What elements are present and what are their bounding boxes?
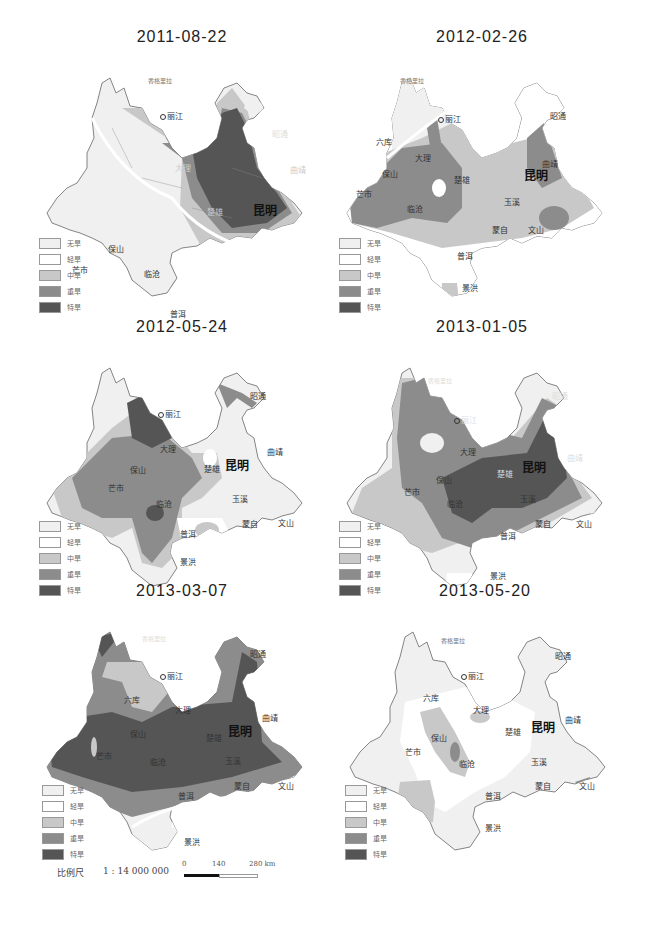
- legend-swatch: [339, 254, 361, 265]
- city-marker-icon: [438, 117, 444, 123]
- legend-item-none: 无旱: [339, 518, 409, 534]
- legend-swatch: [345, 785, 367, 796]
- city-label-dali: 大理: [415, 152, 431, 163]
- legend-item-light: 轻旱: [42, 798, 112, 814]
- map-panel-2013-03-07: 2013-03-07 香格里拉 昭通 丽江 六库 大理 曲靖 昆明 保山 楚雄 …: [32, 582, 332, 867]
- city-label-zhaotong: 昭通: [250, 390, 266, 401]
- city-label-qujing: 曲靖: [565, 714, 581, 725]
- legend-swatch: [345, 849, 367, 860]
- city-label-lincang: 临沧: [459, 758, 475, 769]
- city-marker-icon: [160, 674, 166, 680]
- city-label-chuxiong: 楚雄: [497, 468, 513, 479]
- city-label-mangshi: 芒市: [108, 482, 124, 493]
- city-label-wenshan: 文山: [278, 517, 294, 528]
- city-label-liuku: 六库: [124, 694, 140, 705]
- city-label-jinghong: 景洪: [462, 282, 478, 293]
- city-label-dali: 大理: [473, 704, 489, 715]
- city-marker-icon: [454, 418, 460, 424]
- city-label-jinghong: 景洪: [184, 836, 200, 847]
- city-label-zhaotong: 昭通: [552, 390, 568, 401]
- map-panel-2011-08-22: 2011-08-22 香格里拉 丽江 昭通 大理 曲靖 昆明 楚雄 保山 芒市 …: [32, 28, 332, 313]
- scale-bar-segment-light: [219, 874, 258, 878]
- city-label-zhaotong: 昭通: [272, 128, 288, 139]
- legend-swatch: [39, 302, 61, 313]
- legend-swatch: [345, 833, 367, 844]
- city-label-zhaotong: 昭通: [250, 648, 266, 659]
- city-label-lijiang: 丽江: [160, 110, 183, 121]
- legend: 无旱 轻旱 中旱 重旱 特旱: [339, 235, 409, 315]
- legend-item-severe: 重旱: [345, 830, 415, 846]
- city-label-lijiang: 丽江: [158, 408, 181, 419]
- legend-item-none: 无旱: [39, 518, 109, 534]
- city-label-lincang: 临沧: [150, 756, 166, 767]
- city-label-kunming: 昆明: [522, 458, 546, 475]
- legend-swatch: [339, 553, 361, 564]
- city-label-lincang: 临沧: [407, 203, 423, 214]
- city-label-yuxi: 玉溪: [504, 196, 520, 207]
- legend-swatch: [39, 254, 61, 265]
- legend-item-moderate: 中旱: [42, 814, 112, 830]
- city-label-dali: 大理: [460, 446, 476, 457]
- map-panel-2012-02-26: 2012-02-26 香格里拉 昭通 丽江 六库 大理 曲靖 保山 昆明 楚雄 …: [332, 28, 632, 313]
- city-label-lijiang: 丽江: [438, 113, 461, 124]
- city-label-chuxiong: 楚雄: [206, 732, 222, 743]
- city-label-jinghong: 景洪: [485, 822, 501, 833]
- legend-item-severe: 重旱: [39, 283, 109, 299]
- legend-item-none: 无旱: [39, 235, 109, 251]
- city-label-shangri-la: 香格里拉: [428, 376, 452, 385]
- legend: 无旱 轻旱 中旱 重旱 特旱: [42, 782, 112, 862]
- city-label-qujing: 曲靖: [267, 446, 283, 457]
- legend-item-light: 轻旱: [39, 534, 109, 550]
- legend-item-severe: 重旱: [339, 566, 409, 582]
- city-label-chuxiong: 楚雄: [505, 726, 521, 737]
- city-label-shangri-la: 香格里拉: [441, 636, 465, 645]
- city-label-baoshan: 保山: [108, 243, 124, 254]
- city-label-lincang: 临沧: [156, 498, 172, 509]
- legend-item-moderate: 中旱: [345, 814, 415, 830]
- city-label-wenshan: 文山: [579, 780, 595, 791]
- city-label-zhaotong: 昭通: [555, 650, 571, 661]
- legend-item-extreme: 特旱: [39, 299, 109, 315]
- city-label-kunming: 昆明: [253, 201, 277, 218]
- scale-label: 比例尺: [57, 866, 84, 879]
- city-label-puer: 普洱: [180, 528, 196, 539]
- legend-item-severe: 重旱: [39, 566, 109, 582]
- city-label-puer: 普洱: [485, 790, 501, 801]
- city-marker-icon: [158, 412, 164, 418]
- legend-item-none: 无旱: [339, 235, 409, 251]
- city-label-dali: 大理: [175, 704, 191, 715]
- legend-item-none: 无旱: [42, 782, 112, 798]
- scale-tick-140: 140: [212, 860, 225, 868]
- city-label-mangshi: 芒市: [404, 486, 420, 497]
- legend-item-extreme: 特旱: [345, 846, 415, 862]
- city-label-lincang: 临沧: [447, 498, 463, 509]
- legend-swatch: [39, 286, 61, 297]
- city-label-jinghong: 景洪: [180, 556, 196, 567]
- city-label-baoshan: 保山: [382, 168, 398, 179]
- legend-item-light: 轻旱: [39, 251, 109, 267]
- city-label-yuxi: 玉溪: [520, 493, 536, 504]
- city-label-baoshan: 保山: [130, 728, 146, 739]
- scale-tick-0: 0: [182, 860, 186, 868]
- city-label-yuxi: 玉溪: [531, 756, 547, 767]
- city-label-mengzi: 蒙自: [242, 518, 258, 529]
- legend-swatch: [39, 537, 61, 548]
- scale-bar-segment-dark: [184, 874, 219, 877]
- city-label-mangshi: 芒市: [405, 746, 421, 757]
- legend-swatch: [42, 833, 64, 844]
- legend-swatch: [339, 286, 361, 297]
- city-label-lincang: 临沧: [144, 268, 160, 279]
- legend-swatch: [339, 537, 361, 548]
- city-label-qujing: 曲靖: [290, 164, 306, 175]
- city-label-shangri-la: 香格里拉: [142, 634, 166, 643]
- city-label-chuxiong: 楚雄: [204, 463, 220, 474]
- city-label-lijiang: 丽江: [160, 670, 183, 681]
- legend-swatch: [39, 238, 61, 249]
- legend-item-extreme: 特旱: [339, 299, 409, 315]
- city-label-shangri-la: 香格里拉: [148, 76, 172, 85]
- city-label-liuku: 六库: [376, 136, 392, 147]
- city-label-wenshan: 文山: [528, 224, 544, 235]
- city-label-wenshan: 文山: [576, 518, 592, 529]
- city-label-lijiang: 丽江: [454, 414, 477, 425]
- city-label-kunming: 昆明: [228, 722, 252, 739]
